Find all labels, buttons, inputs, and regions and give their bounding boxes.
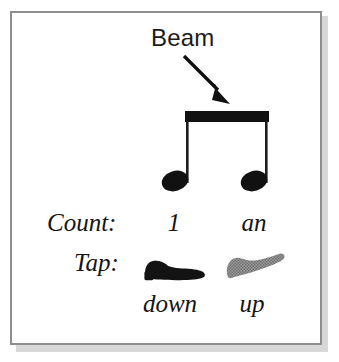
tap-row-label: Tap: [74,249,119,277]
tap-caption-down: down [122,290,218,318]
beam-annotation-label: Beam [151,25,215,51]
arrow-down-right-icon [178,52,240,110]
figure-canvas: Beam Count: 1 an Tap: down u [0,0,339,362]
beamed-eighth-notes [158,106,278,198]
count-row-label: Count: [47,209,116,237]
count-beat-1: 1 [150,209,198,237]
count-beat-2: an [226,209,282,237]
shoe-down-icon [141,252,207,284]
tap-caption-up: up [222,290,282,318]
shoe-up-icon [221,246,287,282]
